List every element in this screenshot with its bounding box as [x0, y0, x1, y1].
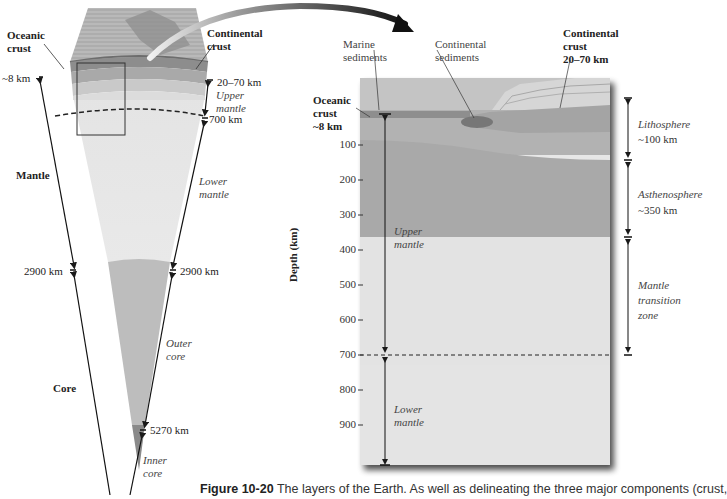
core-mantle-depth-left: 2900 km — [24, 265, 63, 278]
continental-crust-label: Continental crust — [207, 27, 277, 53]
zone-arrows — [624, 98, 632, 355]
marine-sediments-label: Marine sediments — [343, 38, 403, 64]
oceanic-crust-label: Oceanic crust — [7, 29, 57, 55]
tick-600: 600 — [322, 313, 356, 325]
caption-text: The layers of the Earth. As well as deli… — [277, 482, 727, 496]
core-mantle-depth-right: 2900 km — [180, 265, 219, 278]
asthenosphere-label: Asthenosphere — [638, 188, 702, 201]
figure-caption: Figure 10-20 The layers of the Earth. As… — [200, 482, 727, 496]
continental-crust-label-detail: Continental crust — [563, 27, 633, 53]
lower-mantle-label: Lower mantle — [199, 175, 239, 201]
transition-zone-label: Mantle transition zone — [638, 278, 688, 323]
mantle-label: Mantle — [16, 169, 50, 182]
upper-mantle-label: Upper mantle — [216, 89, 256, 115]
continental-sediments-label: Continental sediments — [435, 38, 515, 64]
tick-800: 800 — [322, 383, 356, 395]
continental-crust-depth: 20–70 km — [217, 76, 261, 89]
continental-crust-depth-detail: 20–70 km — [563, 53, 609, 66]
earth-wedge — [39, 8, 214, 495]
oceanic-crust-depth-detail: ~8 km — [313, 120, 342, 133]
oceanic-crust-depth: ~8 km — [2, 72, 30, 85]
tick-500: 500 — [322, 278, 356, 290]
caption-figure-number: Figure 10-20 — [200, 482, 274, 496]
tick-900: 900 — [322, 418, 356, 430]
tick-300: 300 — [322, 208, 356, 220]
inner-core-label: Inner core — [143, 454, 183, 480]
upper-lower-mantle-depth: 700 km — [209, 113, 242, 126]
core-label: Core — [53, 382, 76, 395]
depth-axis-label: Depth (km) — [287, 228, 300, 282]
tick-700: 700 — [322, 348, 356, 360]
tick-400: 400 — [322, 243, 356, 255]
lithosphere-depth: ~100 km — [638, 133, 677, 146]
upper-mantle-label-detail: Upper mantle — [394, 225, 434, 251]
tick-200: 200 — [322, 173, 356, 185]
inner-outer-core-depth: 5270 km — [150, 424, 189, 437]
lithosphere-label: Lithosphere — [638, 118, 690, 131]
oceanic-crust-label-detail: Oceanic crust — [313, 94, 363, 120]
asthenosphere-depth: ~350 km — [638, 204, 677, 217]
outer-core-label: Outer core — [166, 337, 206, 363]
lower-mantle-label-detail: Lower mantle — [394, 403, 434, 429]
tick-100: 100 — [322, 138, 356, 150]
